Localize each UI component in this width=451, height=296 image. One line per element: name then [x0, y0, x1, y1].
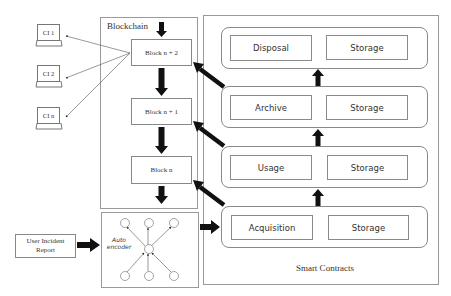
- client-label: CI 2: [43, 70, 54, 77]
- input-label-line2: Report: [27, 246, 65, 255]
- laptop-base-icon: [35, 123, 63, 131]
- laptop-icon-screen: CI 2: [37, 65, 60, 82]
- user-incident-report-box: User Incident Report: [15, 234, 76, 258]
- acquisition-box: Acquisition: [231, 215, 313, 240]
- client-laptop-1: CI 1: [35, 24, 63, 48]
- block-n-plus-1: Block n + 1: [131, 98, 192, 125]
- blockchain-title: Blockchain: [107, 21, 148, 31]
- archive-box: Archive: [230, 95, 312, 120]
- client-laptop-2: CI 2: [35, 65, 63, 89]
- usage-storage-box: Storage: [327, 155, 408, 180]
- laptop-icon-screen: CI 1: [37, 24, 60, 41]
- disposal-box: Disposal: [230, 35, 312, 61]
- autoencoder-panel: [101, 212, 199, 288]
- archive-storage-box: Storage: [326, 95, 408, 120]
- acquisition-storage-box: Storage: [328, 215, 409, 240]
- client-label: CI 1: [43, 29, 54, 36]
- disposal-storage-box: Storage: [326, 35, 408, 60]
- block-n-plus-2: Block n + 2: [131, 39, 192, 66]
- smart-contracts-title: Smart Contracts: [285, 263, 365, 273]
- usage-box: Usage: [230, 155, 312, 180]
- block-n: Block n: [131, 156, 192, 184]
- input-label-line1: User Incident: [27, 237, 65, 246]
- client-label: CI n: [43, 112, 54, 119]
- laptop-base-icon: [35, 40, 63, 48]
- autoencoder-label: Auto encoder: [106, 236, 132, 250]
- client-laptop-n: CI n: [35, 107, 63, 131]
- laptop-base-icon: [35, 81, 63, 89]
- laptop-icon-screen: CI n: [37, 107, 60, 124]
